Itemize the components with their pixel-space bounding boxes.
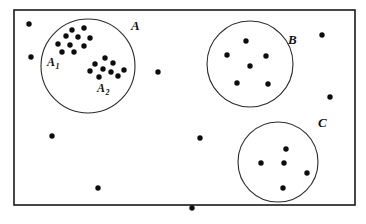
cluster-label-b: B xyxy=(287,32,297,47)
cluster-label-text: A xyxy=(46,55,55,69)
data-point xyxy=(81,43,86,48)
cluster-label-text: A xyxy=(130,18,140,33)
cluster-label-c: C xyxy=(318,115,327,130)
data-point xyxy=(26,21,31,26)
data-point xyxy=(69,27,74,32)
data-points-layer xyxy=(26,21,332,210)
data-point xyxy=(75,34,80,39)
data-point xyxy=(100,66,105,71)
data-point xyxy=(87,68,92,73)
data-point xyxy=(55,41,60,46)
data-point xyxy=(49,133,54,138)
cluster-label-a1: A1 xyxy=(46,55,60,71)
data-point xyxy=(327,94,332,99)
data-point xyxy=(115,73,120,78)
scatter-diagram: AA1A2BC xyxy=(0,0,366,224)
data-point xyxy=(155,69,160,74)
data-point xyxy=(197,135,202,140)
data-point xyxy=(319,32,324,37)
cluster-label-text: C xyxy=(318,115,327,130)
cluster-label-subscript: 2 xyxy=(105,88,110,97)
data-point xyxy=(63,33,68,38)
figure-container: AA1A2BC xyxy=(0,0,366,224)
cluster-label-a: A xyxy=(130,18,140,33)
data-point xyxy=(28,54,33,59)
data-point xyxy=(243,38,248,43)
data-point xyxy=(234,80,239,85)
data-point xyxy=(224,52,229,57)
data-point xyxy=(102,55,107,60)
data-point xyxy=(263,53,268,58)
data-point xyxy=(108,69,113,74)
data-point xyxy=(189,205,194,210)
cluster-boundary-c xyxy=(238,122,318,202)
cluster-label-text: A xyxy=(96,81,105,95)
data-point xyxy=(59,49,64,54)
data-point xyxy=(71,49,76,54)
cluster-label-subscript: 1 xyxy=(56,62,60,71)
data-point xyxy=(87,35,92,40)
data-point xyxy=(67,42,72,47)
data-point xyxy=(247,63,252,68)
cluster-label-text: B xyxy=(287,32,297,47)
cluster-label-a2: A2 xyxy=(96,81,110,97)
data-point xyxy=(281,160,286,165)
data-point xyxy=(96,74,101,79)
data-point xyxy=(258,160,263,165)
data-point xyxy=(81,25,86,30)
data-point xyxy=(121,67,126,72)
data-point xyxy=(265,81,270,86)
data-point xyxy=(110,60,115,65)
data-point xyxy=(304,170,309,175)
data-point xyxy=(95,185,100,190)
data-point xyxy=(280,185,285,190)
data-point xyxy=(92,61,97,66)
data-point xyxy=(283,146,288,151)
